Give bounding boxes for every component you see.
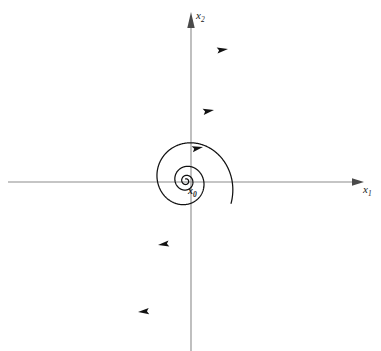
phase-portrait-figure: x2 x1 x0 [0,0,381,351]
flow-direction-arrow-icon [217,46,229,54]
flow-direction-arrow-icon [203,107,215,115]
flow-direction-arrow-icon [158,240,170,248]
initial-point-label: x0 [188,186,197,199]
flow-direction-arrows [138,46,229,315]
y-axis-label: x2 [196,10,205,24]
x-axis-label: x1 [363,184,372,198]
phase-plane-svg [0,0,381,351]
flow-direction-arrow-icon [138,308,149,315]
y-axis-arrowhead-icon [187,12,194,28]
